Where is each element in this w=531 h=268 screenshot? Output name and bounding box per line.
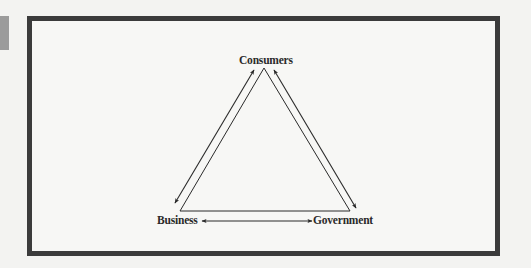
triangle-diagram — [0, 0, 531, 268]
node-business-label: Business — [157, 214, 198, 226]
node-government-label: Government — [313, 214, 373, 226]
node-consumers-label: Consumers — [239, 54, 293, 66]
arrow-consumers-government — [274, 70, 356, 208]
relationship-triangle — [180, 68, 350, 211]
arrow-business-consumers — [175, 70, 254, 203]
